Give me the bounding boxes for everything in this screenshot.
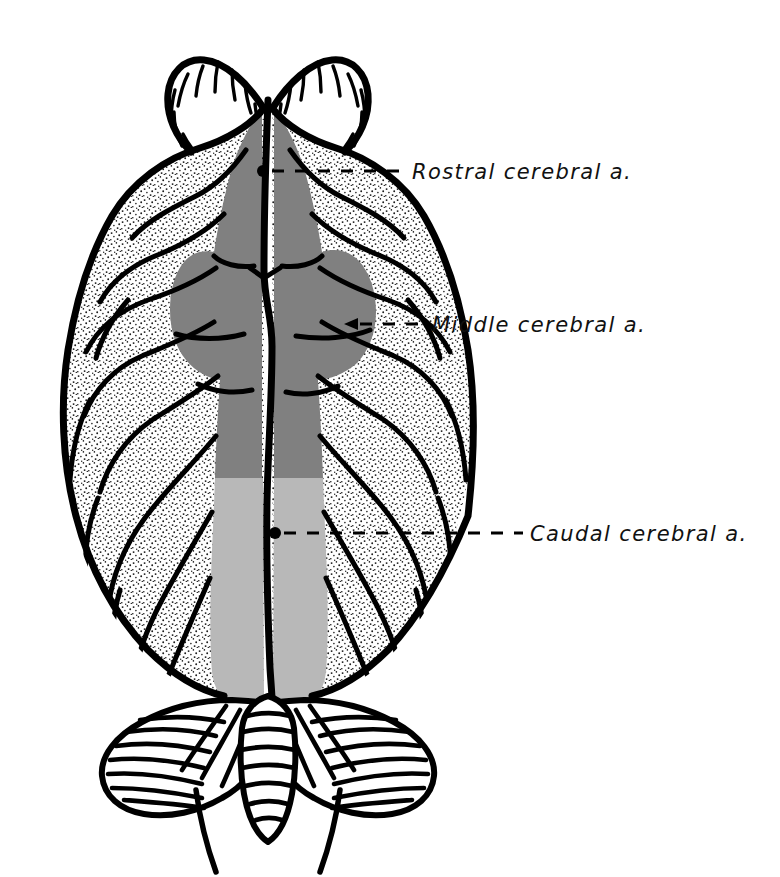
- rostral-cerebral-artery-label: Rostral cerebral a.: [412, 160, 632, 184]
- brain-arterial-territory-diagram: Rostral cerebral a. Middle cerebral a. C…: [0, 0, 780, 877]
- rostral-marker-dot: [257, 165, 269, 177]
- cerebellum: [102, 696, 434, 872]
- territory-caudal-left: [210, 478, 264, 698]
- longitudinal-fissure: [264, 100, 272, 700]
- caudal-cerebral-artery-label: Caudal cerebral a.: [530, 522, 748, 546]
- middle-cerebral-artery-label: Middle cerebral a.: [432, 313, 646, 337]
- territory-caudal-right: [273, 478, 328, 698]
- caudal-marker-dot: [269, 527, 281, 539]
